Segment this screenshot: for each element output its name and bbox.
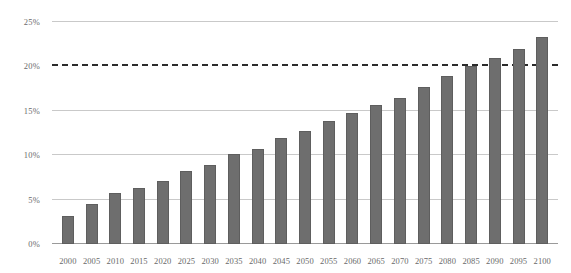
bar: [180, 171, 192, 244]
x-tick-label: 2020: [154, 256, 171, 266]
x-slot: 2030: [198, 250, 222, 268]
bar-slot: [103, 22, 127, 244]
bar: [133, 188, 145, 244]
bar: [465, 66, 477, 244]
x-tick-label: 2025: [178, 256, 195, 266]
bar-slot: [483, 22, 507, 244]
x-slot: 2085: [459, 250, 483, 268]
x-slot: 2000: [56, 250, 80, 268]
x-slot: 2020: [151, 250, 175, 268]
bar-slot: [412, 22, 436, 244]
bar-slot: [459, 22, 483, 244]
x-slot: 2065: [364, 250, 388, 268]
bar-slot: [80, 22, 104, 244]
bar: [489, 58, 501, 244]
bar-slot: [127, 22, 151, 244]
y-tick-label: 15%: [24, 106, 40, 116]
bar-slot: [246, 22, 270, 244]
bar-series: [52, 22, 558, 244]
bar-slot: [317, 22, 341, 244]
bar: [204, 165, 216, 244]
x-slot: 2055: [317, 250, 341, 268]
bar: [323, 121, 335, 244]
x-tick-label: 2065: [368, 256, 385, 266]
plot-area: [52, 22, 558, 244]
x-slot: 2060: [341, 250, 365, 268]
y-tick-label: 20%: [24, 61, 40, 71]
bar-slot: [222, 22, 246, 244]
x-tick-label: 2050: [296, 256, 313, 266]
x-tick-label: 2100: [534, 256, 551, 266]
x-slot: 2075: [412, 250, 436, 268]
x-tick-label: 2070: [391, 256, 408, 266]
bar-slot: [341, 22, 365, 244]
x-slot: 2070: [388, 250, 412, 268]
x-tick-label: 2030: [201, 256, 218, 266]
x-slot: 2035: [222, 250, 246, 268]
bar: [394, 98, 406, 244]
x-slot: 2005: [80, 250, 104, 268]
x-slot: 2090: [483, 250, 507, 268]
x-slot: 2095: [507, 250, 531, 268]
bar-slot: [530, 22, 554, 244]
bar: [513, 49, 525, 244]
bar-chart: 0%5%10%15%20%25% 20002005201020152020202…: [0, 0, 571, 273]
y-tick-label: 0%: [28, 239, 40, 249]
y-axis-labels: 0%5%10%15%20%25%: [0, 22, 46, 244]
x-tick-label: 2090: [486, 256, 503, 266]
y-tick-label: 5%: [28, 195, 40, 205]
bar-slot: [436, 22, 460, 244]
x-slot: 2010: [103, 250, 127, 268]
bar: [299, 131, 311, 244]
bar-slot: [507, 22, 531, 244]
x-tick-label: 2000: [59, 256, 76, 266]
x-tick-label: 2005: [83, 256, 100, 266]
x-slot: 2040: [246, 250, 270, 268]
x-tick-label: 2040: [249, 256, 266, 266]
y-tick-label: 25%: [24, 17, 40, 27]
bar-slot: [388, 22, 412, 244]
x-slot: 2100: [530, 250, 554, 268]
x-tick-label: 2010: [107, 256, 124, 266]
bar: [275, 138, 287, 244]
x-tick-label: 2060: [344, 256, 361, 266]
bar: [109, 193, 121, 244]
bar: [536, 37, 548, 244]
bar: [346, 113, 358, 244]
bar: [62, 216, 74, 244]
x-tick-label: 2085: [462, 256, 479, 266]
bar-slot: [364, 22, 388, 244]
x-tick-label: 2045: [273, 256, 290, 266]
x-slot: 2015: [127, 250, 151, 268]
bar: [370, 105, 382, 244]
bar-slot: [293, 22, 317, 244]
bar-slot: [175, 22, 199, 244]
x-tick-label: 2015: [130, 256, 147, 266]
bar-slot: [269, 22, 293, 244]
x-slot: 2050: [293, 250, 317, 268]
x-slot: 2025: [175, 250, 199, 268]
bar: [86, 204, 98, 244]
x-axis-labels: 2000200520102015202020252030203520402045…: [52, 250, 558, 268]
x-tick-label: 2095: [510, 256, 527, 266]
bar-slot: [151, 22, 175, 244]
bar: [228, 154, 240, 244]
bar: [418, 87, 430, 244]
bar: [252, 149, 264, 244]
x-slot: 2080: [436, 250, 460, 268]
x-tick-label: 2055: [320, 256, 337, 266]
bar: [441, 76, 453, 244]
x-slot: 2045: [269, 250, 293, 268]
x-tick-label: 2080: [439, 256, 456, 266]
x-tick-label: 2075: [415, 256, 432, 266]
bar-slot: [56, 22, 80, 244]
x-tick-label: 2035: [225, 256, 242, 266]
y-tick-label: 10%: [24, 150, 40, 160]
bar: [157, 181, 169, 244]
bar-slot: [198, 22, 222, 244]
